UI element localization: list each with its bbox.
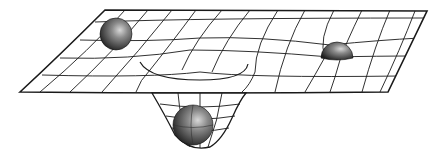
spacetime-diagram xyxy=(0,0,447,157)
sphere-center xyxy=(173,105,213,145)
diagram-canvas xyxy=(0,0,447,157)
grid-sheet xyxy=(20,10,427,93)
sphere-left xyxy=(100,18,132,50)
